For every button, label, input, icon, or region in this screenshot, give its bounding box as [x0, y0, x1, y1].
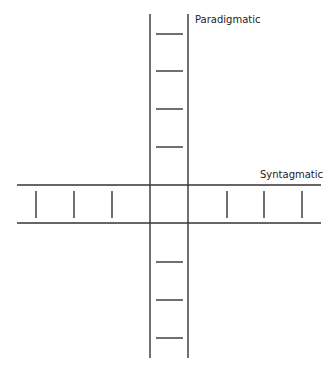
- paradigmatic-syntagmatic-diagram: [0, 0, 333, 366]
- syntagmatic-label: Syntagmatic: [260, 169, 323, 180]
- paradigmatic-label: Paradigmatic: [195, 14, 261, 25]
